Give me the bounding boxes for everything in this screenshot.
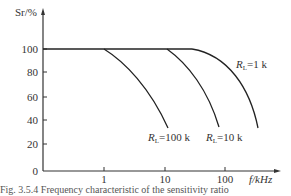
chart-canvas: 100 80 60 40 20 0 1 10 100 Sr/% f/kHz RL… — [0, 0, 291, 196]
y-axis-title: Sr/% — [15, 6, 37, 18]
figure-caption: Fig. 3.5.4 Frequency characteristic of t… — [0, 184, 291, 195]
curve-rl-10k — [167, 49, 219, 127]
y-axis-arrow-icon — [41, 8, 45, 15]
y-tick-label: 40 — [27, 114, 39, 126]
y-tick-label: 0 — [33, 165, 39, 177]
series-label-rl-100k: RL=100 k — [147, 131, 190, 145]
curves — [43, 49, 258, 128]
y-tick-label: 100 — [22, 43, 39, 55]
y-tick-label: 20 — [27, 138, 39, 150]
x-axis-arrow-icon — [274, 169, 281, 173]
series-label-rl-1k: RL=1 k — [235, 58, 267, 72]
y-tick-labels: 100 80 60 40 20 0 — [22, 43, 39, 177]
curve-rl-100k — [104, 49, 168, 128]
y-tick-label: 80 — [27, 66, 39, 78]
y-tick-label: 60 — [27, 91, 39, 103]
series-label-rl-10k: RL=10 k — [205, 131, 243, 145]
